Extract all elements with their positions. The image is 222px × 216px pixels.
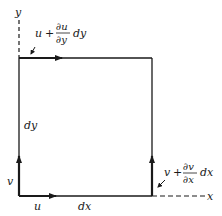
top-label-suffix: dy xyxy=(73,27,87,40)
diagram-canvas: y x dy dx u v u + ∂u ∂y dy v + ∂v ∂x dx xyxy=(0,0,222,216)
y-axis-label: y xyxy=(14,6,22,19)
right-label-suffix: dx xyxy=(200,166,214,179)
v-label: v xyxy=(7,175,14,188)
right-label-leader-arrow xyxy=(158,180,165,187)
dx-label: dx xyxy=(78,200,92,213)
right-label-numerator: ∂v xyxy=(183,161,194,172)
dy-label: dy xyxy=(24,119,38,132)
right-label-denominator: ∂x xyxy=(183,174,194,185)
top-label-base: u xyxy=(35,27,42,40)
u-label: u xyxy=(34,200,41,213)
top-label-leader-arrow xyxy=(31,47,35,54)
right-label-base: v xyxy=(164,166,171,179)
x-axis-label: x xyxy=(207,190,214,203)
velocity-element-diagram: y x dy dx u v u + ∂u ∂y dy v + ∂v ∂x dx xyxy=(0,0,222,216)
top-label-numerator: ∂u xyxy=(56,21,68,32)
right-velocity-label: v + ∂v ∂x dx xyxy=(164,161,214,185)
right-label-plus: + xyxy=(173,166,182,179)
top-label-plus: + xyxy=(45,27,54,40)
top-label-denominator: ∂y xyxy=(56,34,67,45)
top-velocity-label: u + ∂u ∂y dy xyxy=(35,21,87,45)
